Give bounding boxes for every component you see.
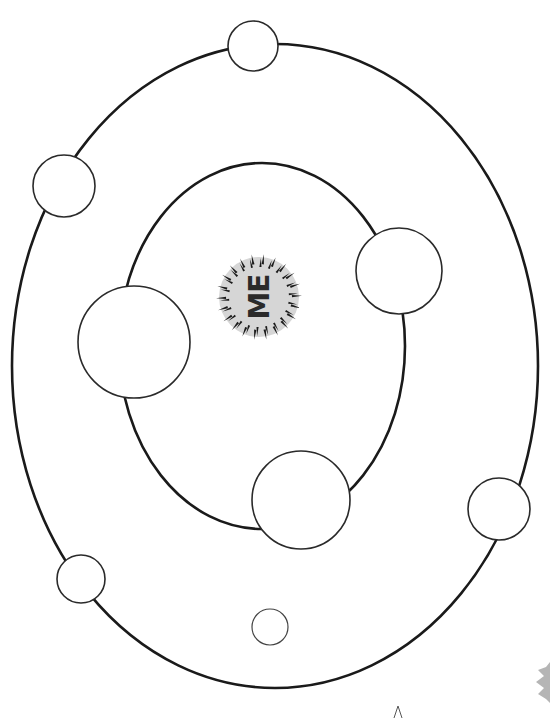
outer-slot-lower-left[interactable] <box>57 555 105 603</box>
free-slot-bottom[interactable] <box>252 609 288 645</box>
me-center-badge: ME <box>216 254 302 339</box>
caret-mark-icon <box>394 706 402 718</box>
partial-star-icon <box>536 662 550 703</box>
slot-circles-group <box>33 21 530 645</box>
inner-slot-right[interactable] <box>356 228 442 314</box>
me-label: ME <box>243 275 276 320</box>
outer-slot-upper-left[interactable] <box>33 155 95 217</box>
relationship-circles-diagram: ME <box>0 0 550 718</box>
outer-slot-top[interactable] <box>228 21 278 71</box>
inner-slot-bottom[interactable] <box>252 451 350 549</box>
inner-slot-left[interactable] <box>78 286 190 398</box>
outer-slot-right[interactable] <box>468 478 530 540</box>
